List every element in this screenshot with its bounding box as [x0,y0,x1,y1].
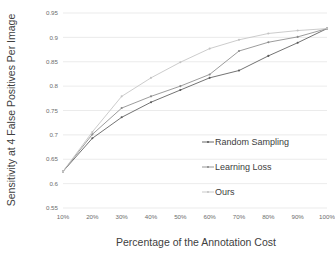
y-tick-label: 0.55 [46,204,59,211]
data-point-marker [267,41,269,43]
data-point-marker [267,32,269,34]
data-point-marker [91,137,93,139]
series-line [63,29,327,172]
data-point-marker [238,50,240,52]
data-point-marker [179,89,181,91]
data-point-marker [209,77,211,79]
y-tick-label: 0.9 [49,34,58,41]
series-line [63,29,327,172]
series-line [63,29,327,172]
data-point-marker [238,39,240,41]
legend-item-label: Ours [215,187,235,197]
line-chart: 0.550.60.650.70.750.80.850.90.95 10%20%3… [0,0,335,258]
x-axis-title: Percentage of the Annotation Cost [116,236,276,248]
y-tick-label: 0.75 [46,107,59,114]
data-point-marker [209,48,211,50]
x-axis-tick-labels: 10%20%30%40%50%60%70%80%90%100% [57,213,335,220]
y-tick-label: 0.6 [49,180,58,187]
x-tick-label: 50% [174,213,187,220]
data-point-marker [209,73,211,75]
x-tick-label: 100% [319,213,335,220]
data-point-marker [150,77,152,79]
data-point-marker [91,131,93,133]
y-axis-tick-labels: 0.550.60.650.70.750.80.850.90.95 [46,9,59,211]
y-tick-label: 0.8 [49,82,58,89]
x-tick-label: 80% [262,213,275,220]
x-tick-label: 70% [233,213,246,220]
y-tick-label: 0.95 [46,9,59,16]
legend-marker-dot [207,166,209,168]
data-point-marker [121,95,123,97]
chart-container: 0.550.60.650.70.750.80.850.90.95 10%20%3… [0,0,335,258]
legend-marker-dot [207,191,209,193]
x-tick-label: 60% [203,213,216,220]
data-point-marker [150,101,152,103]
x-tick-label: 10% [57,213,70,220]
data-point-marker [297,30,299,32]
y-axis-title: Sensitivity at 4 False Positives Per Ima… [5,14,17,207]
data-point-marker [91,133,93,135]
y-tick-label: 0.65 [46,155,59,162]
data-point-marker [179,85,181,87]
legend-item-label: Random Sampling [215,137,289,147]
data-point-marker [62,170,64,172]
y-tick-label: 0.85 [46,58,59,65]
data-series [62,28,328,173]
data-point-marker [297,36,299,38]
x-tick-label: 20% [86,213,99,220]
data-point-marker [326,28,328,30]
chart-legend: Random SamplingLearning LossOurs [202,137,289,197]
x-tick-label: 40% [145,213,158,220]
data-point-marker [121,116,123,118]
data-point-marker [238,69,240,71]
x-tick-label: 30% [115,213,128,220]
x-tick-label: 90% [291,213,304,220]
data-point-marker [121,107,123,109]
gridlines [63,13,327,208]
data-point-marker [179,61,181,63]
y-tick-label: 0.7 [49,131,58,138]
data-point-marker [267,55,269,57]
data-point-marker [297,42,299,44]
legend-item-label: Learning Loss [215,162,272,172]
data-point-marker [150,95,152,97]
legend-marker-dot [207,141,209,143]
